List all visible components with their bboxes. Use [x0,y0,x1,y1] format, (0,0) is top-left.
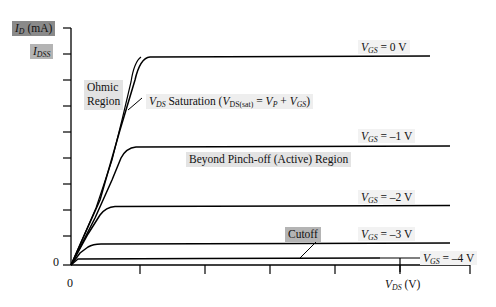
curve-vgs-minus4v [71,258,380,265]
y-axis-label-idss: IDSS [30,44,53,59]
curve-label-vgs-minus2v: VGS = –2 V [358,190,415,204]
y-axis-label-id: ID (mA) [12,21,55,36]
annotation-cutoff: Cutoff [285,227,321,242]
y-axis-ticks [63,28,71,265]
vds-saturation-leader [128,98,142,110]
curve-label-vgs-minus4v: VGS = –4 V [420,251,477,265]
curve-label-vgs-0v: VGS = 0 V [358,40,410,54]
curve-vgs-minus3v [71,243,450,265]
x-axis-ticks [140,265,470,274]
annotation-ohmic-region: Ohmic Region [84,80,123,110]
curve-label-vgs-minus3v: VGS = –3 V [358,227,415,241]
x-axis-origin-label: 0 [67,277,73,290]
cutoff-leader [300,240,318,258]
annotation-vds-saturation: VDS Saturation (VDS(sat) = VP + VGS) [146,94,313,109]
jfet-drain-characteristics-figure: ID (mA) IDSS 0 0 VDS (V) Ohmic Region VD… [0,0,496,307]
curve-label-vgs-minus1v: VGS = –1 V [358,129,415,143]
annotation-beyond-pinchoff: Beyond Pinch-off (Active) Region [186,152,351,167]
x-axis-label-vds: VDS (V) [385,278,420,290]
y-axis-origin-label: 0 [53,256,59,269]
